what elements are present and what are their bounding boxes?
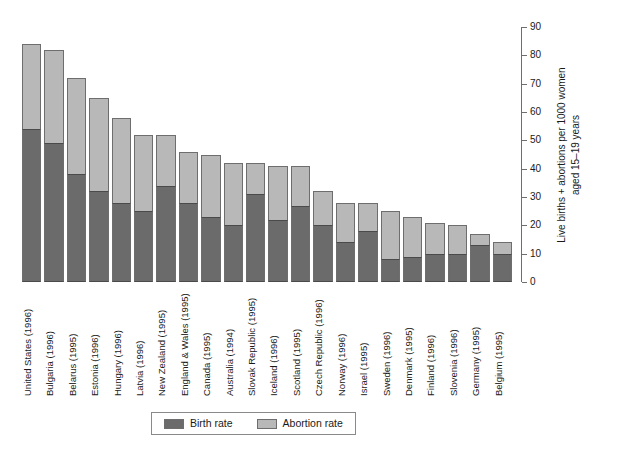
bar-segment-abortion-rate[interactable] <box>336 203 355 243</box>
bar-segment-abortion-rate[interactable] <box>381 211 400 259</box>
bar-segment-abortion-rate[interactable] <box>224 163 243 225</box>
bar-segment-birth-rate[interactable] <box>22 129 41 282</box>
bar-segment-abortion-rate[interactable] <box>470 234 489 245</box>
bar-stack[interactable] <box>381 211 400 282</box>
bar-segment-abortion-rate[interactable] <box>67 78 86 174</box>
y-axis-tick-label: 10 <box>530 249 541 259</box>
bar-segment-birth-rate[interactable] <box>313 225 332 282</box>
bar-segment-birth-rate[interactable] <box>201 217 220 282</box>
bar-segment-abortion-rate[interactable] <box>313 191 332 225</box>
bar-stack[interactable] <box>156 135 175 282</box>
bar-stack[interactable] <box>179 152 198 282</box>
bar-segment-birth-rate[interactable] <box>156 186 175 282</box>
bar-segment-birth-rate[interactable] <box>403 257 422 283</box>
y-axis-tick-mark <box>522 84 527 85</box>
x-axis-label-text: Latvia (1996) <box>134 341 145 396</box>
bar-segment-abortion-rate[interactable] <box>493 242 512 253</box>
bar-segment-birth-rate[interactable] <box>246 194 265 282</box>
bar-stack[interactable] <box>112 118 131 282</box>
x-axis-label: Latvia (1996) <box>134 284 153 396</box>
x-axis-label: Finland (1996) <box>425 284 444 396</box>
x-axis-label: Australia (1994) <box>224 284 243 396</box>
bar-segment-birth-rate[interactable] <box>493 254 512 282</box>
x-axis-label-text: Denmark (1995) <box>403 327 414 396</box>
bar-segment-birth-rate[interactable] <box>134 211 153 282</box>
bar-segment-birth-rate[interactable] <box>224 225 243 282</box>
y-axis-tick-mark <box>522 140 527 141</box>
bar-segment-birth-rate[interactable] <box>67 174 86 282</box>
bar-stack[interactable] <box>313 191 332 282</box>
bar-segment-abortion-rate[interactable] <box>201 155 220 217</box>
bar-segment-abortion-rate[interactable] <box>291 166 310 206</box>
bar-segment-birth-rate[interactable] <box>89 191 108 282</box>
bar-segment-abortion-rate[interactable] <box>179 152 198 203</box>
y-axis-tick-mark <box>522 112 527 113</box>
bar-segment-abortion-rate[interactable] <box>425 223 444 254</box>
x-axis-label: New Zealand (1995) <box>156 284 175 396</box>
bar-stack[interactable] <box>493 242 512 282</box>
bar-stack[interactable] <box>44 50 63 282</box>
y-axis-tick-mark <box>522 197 527 198</box>
bar-segment-abortion-rate[interactable] <box>134 135 153 212</box>
bar-segment-abortion-rate[interactable] <box>246 163 265 194</box>
bar-stack[interactable] <box>291 166 310 282</box>
legend-label-abortion-rate: Abortion rate <box>283 418 343 429</box>
bar-segment-birth-rate[interactable] <box>268 220 287 282</box>
y-axis-tick-mark <box>522 55 527 56</box>
bar-stack[interactable] <box>425 223 444 282</box>
y-axis-title-line1: Live births + abortions per 1000 women <box>556 67 568 242</box>
x-axis-label: Czech Republic (1996) <box>313 284 332 396</box>
bar-segment-birth-rate[interactable] <box>336 242 355 282</box>
x-axis-label-text: Germany (1995) <box>470 327 481 396</box>
bar-segment-abortion-rate[interactable] <box>156 135 175 186</box>
bar-stack[interactable] <box>336 203 355 282</box>
x-axis-label: Slovenia (1996) <box>448 284 467 396</box>
x-axis-label-text: Finland (1996) <box>425 335 436 396</box>
legend-label-birth-rate: Birth rate <box>190 418 233 429</box>
y-axis-tick-label: 20 <box>530 220 541 230</box>
bar-stack[interactable] <box>201 155 220 282</box>
bar-segment-birth-rate[interactable] <box>179 203 198 282</box>
bar-segment-birth-rate[interactable] <box>381 259 400 282</box>
bar-segment-abortion-rate[interactable] <box>358 203 377 231</box>
bar-segment-abortion-rate[interactable] <box>89 98 108 192</box>
bar-stack[interactable] <box>89 98 108 282</box>
x-axis-label-text: Belarus (1995) <box>67 334 78 396</box>
bar-segment-birth-rate[interactable] <box>470 245 489 282</box>
x-axis-label: Sweden (1996) <box>381 284 400 396</box>
bar-stack[interactable] <box>268 166 287 282</box>
y-axis-tick-label: 60 <box>530 107 541 117</box>
bar-segment-birth-rate[interactable] <box>358 231 377 282</box>
x-axis-label-text: Estonia (1996) <box>89 334 100 396</box>
bar-stack[interactable] <box>67 78 86 282</box>
bar-stack[interactable] <box>358 203 377 282</box>
bar-stack[interactable] <box>224 163 243 282</box>
bar-segment-birth-rate[interactable] <box>425 254 444 282</box>
x-axis-label: Norway (1996) <box>336 284 355 396</box>
bar-segment-abortion-rate[interactable] <box>268 166 287 220</box>
bar-segment-abortion-rate[interactable] <box>44 50 63 144</box>
x-axis-label-text: Israel (1995) <box>358 343 369 396</box>
bar-stack[interactable] <box>403 217 422 282</box>
bar-segment-birth-rate[interactable] <box>448 254 467 282</box>
bar-stack[interactable] <box>246 163 265 282</box>
bar-segment-birth-rate[interactable] <box>291 206 310 283</box>
bar-stack[interactable] <box>22 44 41 282</box>
bar-segment-birth-rate[interactable] <box>112 203 131 282</box>
bar-stack[interactable] <box>470 234 489 282</box>
bar-segment-abortion-rate[interactable] <box>22 44 41 129</box>
x-axis-label-text: Slovak Republic (1995) <box>246 298 257 396</box>
bar-stack[interactable] <box>448 225 467 282</box>
y-axis-title-line2: aged 15–19 years <box>570 114 582 194</box>
x-axis-label: Scotland (1995) <box>291 284 310 396</box>
x-axis-label-text: Scotland (1995) <box>291 329 302 396</box>
x-axis-label-text: Czech Republic (1996) <box>313 299 324 396</box>
bar-segment-abortion-rate[interactable] <box>112 118 131 203</box>
bar-segment-abortion-rate[interactable] <box>448 225 467 253</box>
y-axis-tick-label: 40 <box>530 164 541 174</box>
x-axis-label-text: Slovenia (1996) <box>448 329 459 396</box>
bar-segment-birth-rate[interactable] <box>44 143 63 282</box>
x-axis-label-text: Hungary (1996) <box>112 330 123 396</box>
bar-stack[interactable] <box>134 135 153 282</box>
bar-segment-abortion-rate[interactable] <box>403 217 422 257</box>
